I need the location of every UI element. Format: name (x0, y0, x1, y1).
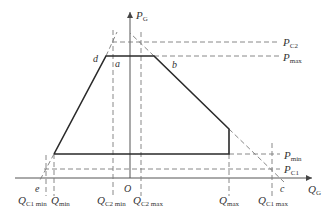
label-pc2: PC2 (282, 36, 298, 50)
point-d: d (93, 53, 99, 64)
right-slope-extension-upper (130, 33, 154, 56)
label-pc1: PC1 (283, 163, 299, 177)
label-pmin: Pmin (283, 149, 302, 163)
label-qc1max: QC1 max (258, 194, 288, 208)
operating-region-boundary (54, 56, 229, 154)
y-axis-label: PG (135, 9, 148, 23)
label-qc1min: QC1 min (18, 194, 47, 208)
point-a: a (115, 58, 120, 69)
origin-label: O (124, 183, 131, 194)
left-slope-extension (106, 32, 117, 56)
point-c: c (280, 183, 285, 194)
x-axis-label: QG (308, 183, 321, 197)
point-e: e (35, 183, 40, 194)
label-pmax: Pmax (282, 51, 302, 65)
label-qmax: Qmax (219, 194, 240, 208)
label-qc2min: QC2 min (97, 194, 126, 208)
pq-diagram: PG QG O d a b c e PC2 Pmax Pmin PC1 QC1 … (0, 0, 332, 219)
label-qmin: Qmin (51, 194, 70, 208)
point-b: b (172, 59, 177, 70)
label-qc2max: QC2 max (133, 194, 163, 208)
right-slope-extension (229, 129, 284, 182)
left-slope-extension-lower (40, 154, 54, 180)
